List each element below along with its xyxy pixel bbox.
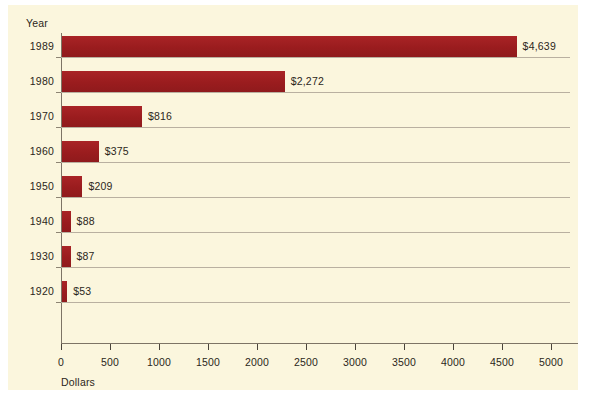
- x-axis-tick: [208, 344, 209, 350]
- bar: [62, 281, 67, 302]
- y-axis-tick-label: 1930: [13, 250, 54, 262]
- y-axis-tick-label: 1980: [13, 75, 54, 87]
- x-axis-tick: [355, 344, 356, 350]
- bar: [62, 176, 82, 197]
- x-axis-tick-label: 4500: [477, 356, 527, 368]
- y-axis-tick-label: 1970: [13, 110, 54, 122]
- bar-value-label: $209: [88, 180, 112, 192]
- x-axis-tick: [110, 344, 111, 350]
- x-axis-line: [61, 343, 578, 344]
- bar: [62, 141, 99, 162]
- x-axis-tick-label: 3500: [379, 356, 429, 368]
- bar-value-label: $87: [77, 250, 95, 262]
- x-axis-tick-label: 2000: [232, 356, 282, 368]
- gridline: [61, 302, 570, 303]
- bar-value-label: $816: [148, 110, 172, 122]
- gridline: [61, 197, 570, 198]
- y-axis-tick: [56, 232, 61, 233]
- x-axis-tick: [404, 344, 405, 350]
- bar-value-label: $53: [73, 285, 91, 297]
- gridline: [61, 267, 570, 268]
- x-axis-tick: [159, 344, 160, 350]
- y-axis-tick-label: 1940: [13, 215, 54, 227]
- y-axis-tick-label: 1920: [13, 285, 54, 297]
- bar: [62, 211, 71, 232]
- y-axis-tick: [56, 302, 61, 303]
- bar-value-label: $88: [77, 215, 95, 227]
- x-axis-tick-label: 2500: [281, 356, 331, 368]
- x-axis-tick: [453, 344, 454, 350]
- y-axis-tick: [56, 92, 61, 93]
- x-axis-tick-label: 5000: [526, 356, 576, 368]
- y-axis-tick: [56, 162, 61, 163]
- x-axis-tick-label: 4000: [428, 356, 478, 368]
- y-axis-tick-label: 1950: [13, 180, 54, 192]
- y-axis-tick-label: 1960: [13, 145, 54, 157]
- gridline: [61, 127, 570, 128]
- x-axis-tick-label: 1500: [183, 356, 233, 368]
- x-axis-tick: [306, 344, 307, 350]
- chart-panel: Year 19891980197019601950194019301920 $4…: [8, 5, 578, 390]
- gridline: [61, 92, 570, 93]
- x-axis-tick: [257, 344, 258, 350]
- x-axis-tick: [551, 344, 552, 350]
- y-axis-tick: [56, 197, 61, 198]
- y-axis-tick: [56, 127, 61, 128]
- x-axis-title: Dollars: [61, 376, 95, 388]
- x-axis-tick: [502, 344, 503, 350]
- bar: [62, 106, 142, 127]
- x-axis-tick-label: 500: [85, 356, 135, 368]
- bar: [62, 71, 285, 92]
- bar-value-label: $375: [105, 145, 129, 157]
- x-axis-tick-label: 3000: [330, 356, 380, 368]
- y-axis-tick: [56, 57, 61, 58]
- bar-value-label: $2,272: [291, 75, 324, 87]
- x-axis-tick: [61, 344, 62, 350]
- gridline: [61, 57, 570, 58]
- y-axis-tick-label: 1989: [13, 40, 54, 52]
- x-axis-tick-label: 1000: [134, 356, 184, 368]
- bar: [62, 246, 71, 267]
- bar: [62, 36, 517, 57]
- chart-screenshot: Year 19891980197019601950194019301920 $4…: [0, 0, 589, 403]
- y-axis-title: Year: [26, 17, 48, 29]
- gridline: [61, 232, 570, 233]
- gridline: [61, 162, 570, 163]
- x-axis-tick-label: 0: [36, 356, 86, 368]
- y-axis-tick: [56, 267, 61, 268]
- bar-value-label: $4,639: [523, 40, 556, 52]
